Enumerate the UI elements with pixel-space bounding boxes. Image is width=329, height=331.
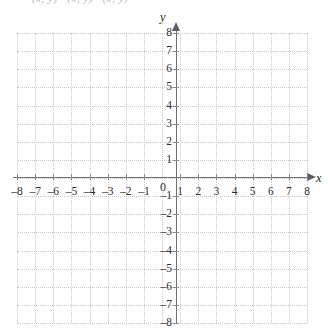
y-axis-tick [173, 33, 179, 34]
y-axis-tick [173, 106, 179, 107]
y-axis-tick [173, 232, 179, 233]
y-axis-tick-label: 1 [152, 154, 172, 166]
x-axis-tick-label: 2 [188, 186, 208, 198]
x-axis-tick-label: 4 [225, 186, 245, 198]
y-axis-tick-label: 4 [152, 100, 172, 112]
y-axis-tick-label: –4 [152, 245, 172, 257]
x-axis-tick-label: –6 [43, 186, 63, 198]
y-axis-tick [173, 87, 179, 88]
x-axis-tick [216, 174, 217, 180]
y-axis-tick-label: –2 [152, 208, 172, 220]
x-axis-tick [307, 174, 308, 180]
y-axis-tick-label: 6 [152, 63, 172, 75]
y-axis-tick [173, 287, 179, 288]
y-axis-tick-label: –3 [152, 226, 172, 238]
x-axis-tick [108, 174, 109, 180]
x-axis-tick [53, 174, 54, 180]
origin-label: 0 [160, 180, 166, 195]
y-axis-tick-label: –6 [152, 281, 172, 293]
x-axis-tick-label: 6 [261, 186, 281, 198]
x-axis-tick [235, 174, 236, 180]
grid-line-horizontal [17, 178, 307, 179]
x-axis-tick [271, 174, 272, 180]
y-axis-tick [173, 323, 179, 324]
cartesian-coordinate-plane: –8–7–6–5–4–3–2–112345678 87654321–1–2–3–… [0, 0, 329, 331]
y-axis-tick-label: 7 [152, 45, 172, 57]
x-axis-tick [144, 174, 145, 180]
x-axis-tick-label: –2 [116, 186, 136, 198]
x-axis-tick-label: –3 [98, 186, 118, 198]
y-axis-tick [173, 51, 179, 52]
x-axis-tick [253, 174, 254, 180]
x-axis-tick-label: –5 [61, 186, 81, 198]
y-axis-tick [173, 214, 179, 215]
x-axis-tick [180, 174, 181, 180]
x-axis-tick [198, 174, 199, 180]
x-axis-tick-label: –7 [25, 186, 45, 198]
y-axis-tick [173, 69, 179, 70]
x-axis-tick-label: 8 [297, 186, 317, 198]
y-axis-tick-label: 2 [152, 136, 172, 148]
x-axis-arrowhead-icon [307, 173, 316, 181]
y-axis-tick [173, 305, 179, 306]
y-axis-tick-label: 3 [152, 118, 172, 130]
x-axis-tick-label: 3 [206, 186, 226, 198]
x-axis-tick-label: –8 [7, 186, 27, 198]
x-axis-tick [90, 174, 91, 180]
x-axis-tick-label: –4 [80, 186, 100, 198]
x-axis-tick [71, 174, 72, 180]
x-axis-tick-label: 7 [279, 186, 299, 198]
y-axis-tick [173, 124, 179, 125]
x-axis-tick-label: 1 [170, 186, 190, 198]
x-axis-tick [289, 174, 290, 180]
y-axis-tick-label: 8 [152, 27, 172, 39]
y-axis-tick [173, 142, 179, 143]
x-axis-label: x [316, 171, 322, 186]
y-axis-tick-label: 5 [152, 81, 172, 93]
y-axis-arrowhead-icon [172, 22, 180, 31]
y-axis-tick [173, 269, 179, 270]
y-axis-label: y [160, 10, 166, 25]
x-axis-line [13, 177, 310, 178]
y-axis-tick-label: –8 [152, 317, 172, 329]
x-axis-tick [126, 174, 127, 180]
x-axis-tick-label: 5 [243, 186, 263, 198]
x-axis-tick-label: –1 [134, 186, 154, 198]
y-axis-tick-label: –7 [152, 299, 172, 311]
y-axis-tick [173, 160, 179, 161]
x-axis-tick [35, 174, 36, 180]
y-axis-tick [173, 251, 179, 252]
x-axis-tick [17, 174, 18, 180]
y-axis-tick-label: –5 [152, 263, 172, 275]
